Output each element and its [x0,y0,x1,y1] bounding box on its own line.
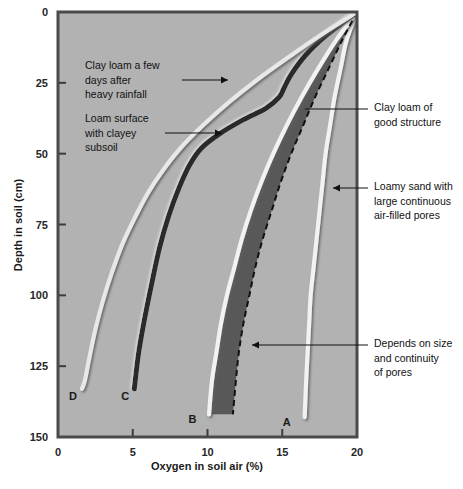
annotation-loamy-sand-line: Loamy sand with [374,180,453,192]
annotation-loamy-sand-line: large continuous [374,195,451,207]
annotation-clay-loam-structure-line: good structure [374,116,441,128]
soil-oxygen-depth-chart: 051015200255075100125150 DCBA Clay loam … [0,0,463,489]
annotation-clay-loam-rainfall-line: days after [85,74,132,86]
y-axis-title: Depth in soil (cm) [12,179,24,272]
annotation-clay-loam-rainfall-line: heavy rainfall [85,88,147,100]
y-tick-label: 50 [36,148,48,160]
y-tick-label: 125 [30,360,48,372]
y-tick-label: 0 [42,6,48,18]
annotation-clay-loam-rainfall-line: Clay loam a few [85,59,160,71]
annotation-clay-loam-structure-line: Clay loam of [374,101,432,113]
curve-label-A: A [283,416,291,428]
chart-canvas: 051015200255075100125150 DCBA Clay loam … [0,0,463,489]
annotation-depends-on-pores-line: of pores [374,366,412,378]
annotation-loam-surface-line: with clayey [84,127,137,139]
x-tick-label: 10 [201,446,213,458]
x-tick-label: 20 [351,446,363,458]
annotation-loam-surface-line: subsoil [85,141,118,153]
curve-label-D: D [69,390,77,402]
annotation-loam-surface-line: Loam surface [85,112,149,124]
y-tick-label: 100 [30,289,48,301]
annotation-depends-on-pores-line: Depends on size [374,337,452,349]
curve-label-B: B [189,413,197,425]
y-tick-label: 25 [36,77,48,89]
x-tick-label: 5 [130,446,136,458]
x-tick-label: 0 [55,446,61,458]
x-tick-label: 15 [276,446,288,458]
y-tick-label: 75 [36,219,48,231]
y-tick-label: 150 [30,431,48,443]
curve-label-C: C [121,390,129,402]
annotation-loamy-sand-line: air-filled pores [374,209,440,221]
x-axis-title: Oxygen in soil air (%) [151,460,263,472]
annotation-depends-on-pores-line: and continuity [374,352,440,364]
